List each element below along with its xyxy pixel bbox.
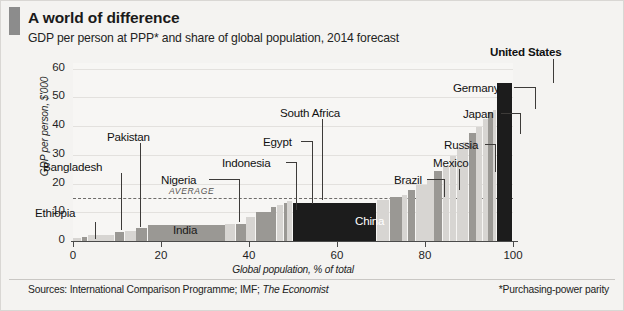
footer-divider — [9, 279, 615, 280]
bar-inline-label-china: China — [355, 214, 384, 227]
bar-unlabelled — [287, 201, 292, 241]
bar-unlabelled — [277, 205, 283, 241]
callout-leader-line — [514, 87, 535, 88]
callout-label-egypt: Egypt — [263, 135, 292, 148]
callout-label-indonesia: Indonesia — [222, 156, 270, 169]
bar-unlabelled — [416, 185, 427, 241]
callout-leader-line — [95, 222, 96, 239]
x-tick — [513, 242, 514, 247]
callout-leader-line — [535, 87, 536, 109]
bar-united-states — [497, 83, 513, 241]
callout-leader-line — [459, 169, 460, 190]
callout-leader-line — [495, 144, 496, 172]
bar-unlabelled — [246, 217, 255, 241]
bar-inline-label-india: India — [173, 223, 197, 236]
bar-nigeria — [236, 224, 246, 241]
x-tick — [249, 242, 250, 247]
y-tick-label: 0 — [43, 233, 65, 245]
y-tick-label: 30 — [43, 147, 65, 159]
x-tick — [337, 242, 338, 247]
bar-brazil — [390, 197, 402, 241]
x-tick-label: 60 — [322, 249, 352, 261]
callout-label-bangladesh: Bangladesh — [43, 160, 102, 173]
callout-label-south-africa: South Africa — [280, 106, 340, 119]
callout-leader-line — [121, 173, 122, 230]
page-title: A world of difference — [28, 9, 179, 27]
economist-chart-figure: A world of difference GDP per person at … — [0, 0, 624, 311]
brand-accent-bar — [9, 7, 20, 35]
bar-indonesia — [256, 212, 271, 241]
x-tick-label: 40 — [234, 249, 264, 261]
bar-unlabelled — [493, 110, 496, 241]
y-tick-label: 40 — [43, 118, 65, 130]
bar-unlabelled — [483, 119, 488, 241]
callout-leader-line — [286, 162, 296, 163]
bar-south-africa — [284, 203, 287, 241]
sources-text: Sources: International Comparison Progra… — [28, 284, 260, 295]
callout-leader-line — [322, 119, 323, 200]
bar-russia — [434, 171, 442, 241]
x-axis-title: Global population, % of total — [73, 264, 513, 275]
x-axis-baseline — [71, 241, 518, 242]
y-tick-label: 50 — [43, 89, 65, 101]
callout-label-japan: Japan — [463, 107, 494, 120]
callout-leader-line — [209, 179, 239, 180]
bar-germany — [488, 112, 492, 241]
bar-unlabelled — [443, 166, 449, 241]
callout-label-mexico: Mexico — [433, 156, 469, 169]
footnote-ppp: *Purchasing-power parity — [499, 284, 609, 295]
callout-leader-line — [140, 143, 141, 227]
callout-label-brazil: Brazil — [394, 173, 422, 186]
callout-leader-line — [520, 113, 521, 134]
callout-label-germany: Germany — [453, 81, 499, 94]
sources-publication: The Economist — [262, 284, 328, 295]
chart-bars — [73, 63, 513, 241]
bar-bangladesh — [115, 232, 125, 241]
x-tick — [73, 242, 74, 247]
page-subtitle: GDP per person at PPP* and share of glob… — [28, 31, 399, 45]
x-tick-label: 20 — [146, 249, 176, 261]
y-tick-label: 20 — [43, 176, 65, 188]
bar-egypt — [271, 207, 276, 241]
bar-unlabelled — [427, 179, 433, 241]
x-tick — [161, 242, 162, 247]
callout-label-russia: Russia — [444, 138, 478, 151]
bar-unlabelled — [402, 195, 407, 241]
callout-leader-line — [427, 179, 444, 180]
y-tick-label: 60 — [43, 61, 65, 73]
callout-leader-line — [553, 59, 554, 83]
bar-pakistan — [136, 228, 147, 241]
callout-label-pakistan: Pakistan — [107, 130, 150, 143]
sources-line: Sources: International Comparison Progra… — [28, 284, 328, 295]
x-tick-label: 80 — [410, 249, 440, 261]
bar-unlabelled — [125, 231, 136, 241]
callout-leader-line — [312, 141, 313, 204]
x-tick-label: 0 — [58, 249, 88, 261]
callout-label-nigeria: Nigeria — [161, 173, 196, 186]
x-tick-label: 100 — [498, 249, 528, 261]
bar-mexico — [408, 190, 415, 241]
callout-leader-line — [296, 162, 297, 210]
x-tick — [425, 242, 426, 247]
callout-leader-line — [485, 144, 495, 145]
callout-leader-line — [444, 179, 445, 197]
callout-leader-line — [239, 179, 240, 222]
callout-label-ethiopia: Ethiopia — [35, 206, 75, 219]
callout-leader-line — [301, 141, 312, 142]
bar-unlabelled — [225, 224, 235, 241]
callout-leader-line — [501, 113, 520, 114]
callout-label-united-states: United States — [490, 45, 562, 58]
